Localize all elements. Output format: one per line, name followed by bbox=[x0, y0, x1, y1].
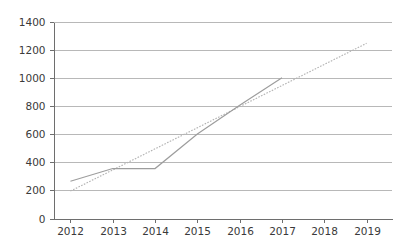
y-axis-tick-marks bbox=[50, 23, 54, 220]
gridlines bbox=[54, 23, 393, 191]
x-axis-labels: 20122013201420152016201720182019 bbox=[57, 225, 381, 237]
y-axis-tick-label: 1200 bbox=[19, 44, 46, 56]
y-axis-tick-label: 600 bbox=[25, 128, 45, 140]
data-series-line bbox=[70, 78, 282, 181]
y-axis-tick-label: 200 bbox=[25, 184, 45, 196]
x-axis-tick-label: 2016 bbox=[227, 225, 254, 237]
y-axis-tick-label: 1400 bbox=[19, 16, 46, 28]
x-axis-tick-label: 2012 bbox=[57, 225, 84, 237]
y-axis-tick-label: 400 bbox=[25, 156, 45, 168]
x-axis-tick-label: 2018 bbox=[311, 225, 338, 237]
x-axis-tick-label: 2013 bbox=[100, 225, 127, 237]
y-axis-tick-label: 1000 bbox=[19, 72, 46, 84]
y-axis-tick-label: 800 bbox=[25, 100, 45, 112]
chart-canvas: 0200400600800100012001400 20122013201420… bbox=[0, 0, 399, 247]
x-axis-tick-label: 2015 bbox=[184, 225, 211, 237]
x-axis-tick-label: 2014 bbox=[142, 225, 169, 237]
y-axis-tick-label: 0 bbox=[39, 213, 46, 225]
x-axis-tick-label: 2019 bbox=[354, 225, 381, 237]
line-chart: 0200400600800100012001400 20122013201420… bbox=[0, 0, 399, 247]
y-axis-labels: 0200400600800100012001400 bbox=[19, 16, 46, 225]
x-axis-tick-label: 2017 bbox=[269, 225, 296, 237]
